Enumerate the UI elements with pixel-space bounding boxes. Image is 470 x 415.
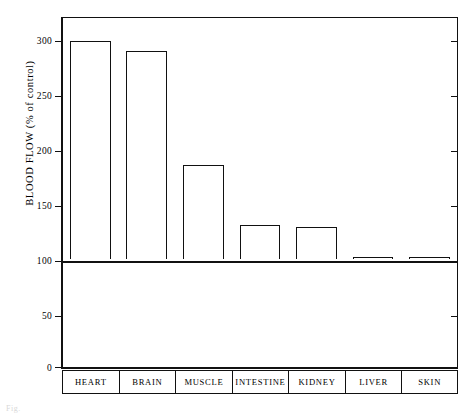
bar-heart — [70, 41, 111, 259]
category-label-kidney: KIDNEY — [288, 370, 345, 394]
y-tick-label-0: 0 — [26, 364, 52, 374]
bar-muscle — [183, 165, 224, 259]
figure-caption: Fig. — [6, 404, 21, 413]
category-label-liver: LIVER — [345, 370, 402, 394]
figure-blood-flow: BLOOD FLOW (% of control) 300 250 200 15… — [0, 0, 470, 415]
category-label-intestine: INTESTINE — [232, 370, 289, 394]
bar-kidney — [296, 227, 337, 259]
y-tick-label-300: 300 — [26, 37, 52, 47]
bar-brain — [126, 51, 167, 259]
category-label-row: HEARTBRAINMUSCLEINTESTINEKIDNEYLIVERSKIN — [62, 370, 458, 394]
category-label-brain: BRAIN — [119, 370, 176, 394]
y-tick-label-250: 250 — [26, 92, 52, 102]
bar-series — [62, 17, 458, 368]
y-tick-label-200: 200 — [26, 147, 52, 157]
bar-skin — [409, 257, 450, 259]
category-label-muscle: MUSCLE — [175, 370, 232, 394]
bar-liver — [353, 257, 394, 259]
y-tick-label-100: 100 — [26, 257, 52, 267]
category-label-heart: HEART — [62, 370, 119, 394]
y-tick-label-50: 50 — [26, 312, 52, 322]
category-label-skin: SKIN — [401, 370, 458, 394]
y-tick-label-150: 150 — [26, 202, 52, 212]
y-axis-tick-labels: 300 250 200 150 100 50 0 — [22, 0, 52, 415]
bar-intestine — [240, 225, 281, 259]
